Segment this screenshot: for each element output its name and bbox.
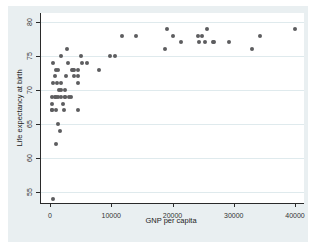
- y-tick-label: 55: [26, 188, 33, 196]
- data-point: [76, 68, 80, 72]
- x-tick-mark: [173, 203, 174, 207]
- data-point: [51, 81, 55, 85]
- data-point: [203, 40, 207, 44]
- y-gridline: [41, 22, 304, 23]
- y-tick-mark: [36, 192, 40, 193]
- x-tick-label: 40000: [285, 212, 304, 219]
- x-tick-label: 10000: [102, 212, 121, 219]
- y-tick-label: 80: [26, 18, 33, 26]
- y-tick-mark: [36, 56, 40, 57]
- scatter-plot-window: Life expectancy at birth GNP per capita …: [0, 0, 317, 249]
- data-point: [51, 61, 55, 65]
- data-point: [69, 95, 73, 99]
- data-point: [163, 47, 167, 51]
- y-tick-mark: [36, 90, 40, 91]
- y-tick-label: 75: [26, 52, 33, 60]
- y-gridline: [41, 90, 304, 91]
- data-point: [54, 108, 58, 112]
- x-tick-label: 30000: [224, 212, 243, 219]
- data-point: [85, 61, 89, 65]
- data-point: [54, 142, 58, 146]
- data-point: [76, 74, 80, 78]
- data-point: [200, 34, 204, 38]
- x-tick-mark: [295, 203, 296, 207]
- data-point: [65, 47, 69, 51]
- data-point: [61, 102, 65, 106]
- y-tick-label: 65: [26, 120, 33, 128]
- data-point: [64, 74, 68, 78]
- data-point: [212, 40, 216, 44]
- data-point: [113, 54, 117, 58]
- y-axis-title: Life expectancy at birth: [15, 69, 24, 146]
- data-point: [56, 68, 60, 72]
- data-point: [120, 34, 124, 38]
- y-tick-label: 70: [26, 86, 33, 94]
- data-point: [66, 61, 70, 65]
- data-point: [197, 40, 201, 44]
- y-gridline: [41, 158, 304, 159]
- x-tick-label: 20000: [163, 212, 182, 219]
- x-tick-mark: [111, 203, 112, 207]
- data-point: [79, 54, 83, 58]
- data-point: [134, 34, 138, 38]
- data-point: [59, 54, 63, 58]
- y-tick-label: 60: [26, 154, 33, 162]
- data-point: [179, 40, 183, 44]
- data-point: [293, 27, 297, 31]
- data-point: [76, 108, 80, 112]
- data-point: [171, 34, 175, 38]
- data-point: [51, 197, 55, 201]
- data-point: [250, 47, 254, 51]
- data-point: [227, 40, 231, 44]
- y-tick-mark: [36, 158, 40, 159]
- data-point: [59, 81, 63, 85]
- data-point: [108, 54, 112, 58]
- data-point: [205, 27, 209, 31]
- data-point: [56, 122, 60, 126]
- data-point: [80, 61, 84, 65]
- data-point: [258, 34, 262, 38]
- y-gridline: [41, 192, 304, 193]
- data-point: [165, 27, 169, 31]
- data-point: [63, 88, 67, 92]
- plot-area: 556065707580010000200003000040000: [40, 13, 304, 204]
- data-point: [72, 74, 76, 78]
- data-point: [97, 68, 101, 72]
- data-point: [50, 102, 54, 106]
- x-tick-mark: [234, 203, 235, 207]
- x-tick-mark: [50, 203, 51, 207]
- data-point: [62, 108, 66, 112]
- data-point: [53, 74, 57, 78]
- data-point: [63, 95, 67, 99]
- y-tick-mark: [36, 22, 40, 23]
- data-point: [58, 129, 62, 133]
- graph-background: Life expectancy at birth GNP per capita …: [8, 6, 308, 242]
- y-tick-mark: [36, 124, 40, 125]
- x-tick-label: 0: [48, 212, 52, 219]
- data-point: [76, 81, 80, 85]
- y-gridline: [41, 124, 304, 125]
